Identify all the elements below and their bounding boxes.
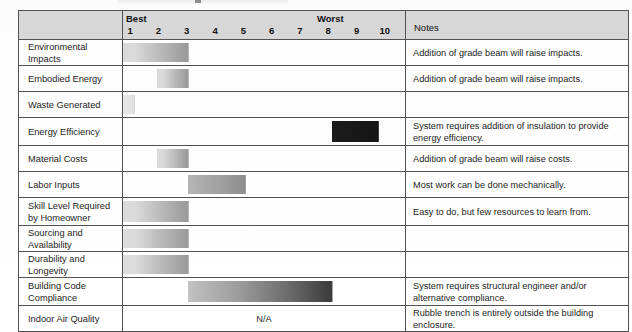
row-label-10: Indoor Air Quality <box>19 306 123 332</box>
table-row: Energy EfficiencySystem requires additio… <box>19 118 629 146</box>
table-row: Indoor Air QualityN/ARubble trench is en… <box>19 306 629 332</box>
row-note-0: Addition of grade beam will raise impact… <box>406 40 629 66</box>
row-label-2: Waste Generated <box>19 92 123 118</box>
row-note-2 <box>406 92 629 118</box>
header-scale-cell: Best Worst 12345678910 <box>123 11 406 40</box>
table-row: Sourcing and Availability <box>19 226 629 252</box>
scale-tick-8: 8 <box>326 25 331 36</box>
rating-bar <box>123 43 189 62</box>
row-label-1: Embodied Energy <box>19 66 123 92</box>
row-note-1: Addition of grade beam will raise impact… <box>406 66 629 92</box>
row-label-6: Skill Level Required by Homeowner <box>19 198 123 226</box>
table-body: Environmental ImpactsAddition of grade b… <box>19 40 629 332</box>
row-label-9: Building Code Compliance <box>19 278 123 306</box>
header-blank-cell <box>19 11 123 40</box>
row-rating-bar-cell-8 <box>123 252 406 278</box>
row-note-6: Easy to do, but few resources to learn f… <box>406 198 629 226</box>
row-note-7 <box>406 226 629 252</box>
row-rating-bar-cell-3 <box>123 118 406 146</box>
row-rating-bar-cell-9 <box>123 278 406 306</box>
row-rating-bar-cell-0 <box>123 40 406 66</box>
row-label-4: Material Costs <box>19 146 123 172</box>
table-row: Building Code ComplianceSystem requires … <box>19 278 629 306</box>
rating-bar <box>188 175 246 194</box>
rating-bar <box>123 201 189 222</box>
rating-bar <box>157 149 189 168</box>
assessment-matrix-table: Best Worst 12345678910 Notes Environment… <box>18 10 629 332</box>
row-label-8: Durability and Longevity <box>19 252 123 278</box>
row-label-3: Energy Efficiency <box>19 118 123 146</box>
scale-tick-3: 3 <box>184 25 189 36</box>
scale-tick-1: 1 <box>127 25 132 36</box>
rating-bar <box>188 281 333 302</box>
rating-bar <box>123 255 189 274</box>
row-rating-bar-cell-6 <box>123 198 406 226</box>
row-label-7: Sourcing and Availability <box>19 226 123 252</box>
scale-best-label: Best <box>126 13 147 24</box>
rating-bar <box>123 229 189 248</box>
scale-tick-2: 2 <box>156 25 161 36</box>
row-note-4: Addition of grade beam will raise costs. <box>406 146 629 172</box>
row-label-5: Labor Inputs <box>19 172 123 198</box>
table-row: Durability and Longevity <box>19 252 629 278</box>
rating-na-label: N/A <box>123 314 405 324</box>
rating-bar <box>123 95 135 114</box>
rating-bar <box>157 69 189 88</box>
scale-tick-5: 5 <box>241 25 246 36</box>
scale-tick-9: 9 <box>354 25 359 36</box>
notes-column-label: Notes <box>414 18 628 33</box>
cropped-title-glyph <box>195 0 201 3</box>
row-note-3: System requires addition of insulation t… <box>406 118 629 146</box>
scale-tick-track: 12345678910 <box>123 25 405 39</box>
row-rating-bar-cell-2 <box>123 92 406 118</box>
table-row: Labor InputsMost work can be done mechan… <box>19 172 629 198</box>
header-row: Best Worst 12345678910 Notes <box>19 11 629 40</box>
scale-tick-6: 6 <box>269 25 274 36</box>
table-row: Skill Level Required by HomeownerEasy to… <box>19 198 629 226</box>
rating-bar <box>332 121 378 142</box>
row-rating-bar-cell-7 <box>123 226 406 252</box>
table-row: Environmental ImpactsAddition of grade b… <box>19 40 629 66</box>
row-rating-bar-cell-10: N/A <box>123 306 406 332</box>
row-note-5: Most work can be done mechanically. <box>406 172 629 198</box>
row-rating-bar-cell-1 <box>123 66 406 92</box>
row-label-0: Environmental Impacts <box>19 40 123 66</box>
table-row: Material CostsAddition of grade beam wil… <box>19 146 629 172</box>
scale-tick-10: 10 <box>380 25 391 36</box>
scale-tick-4: 4 <box>212 25 217 36</box>
table-header: Best Worst 12345678910 Notes <box>19 11 629 40</box>
table-row: Embodied Energy Addition of grade beam w… <box>19 66 629 92</box>
row-note-8 <box>406 252 629 278</box>
cropped-title-sliver <box>118 0 288 5</box>
row-note-9: System requires structural engineer and/… <box>406 278 629 306</box>
row-rating-bar-cell-4 <box>123 146 406 172</box>
scale-worst-label: Worst <box>317 13 344 24</box>
row-note-10: Rubble trench is entirely outside the bu… <box>406 306 629 332</box>
table-row: Waste Generated <box>19 92 629 118</box>
scale-tick-7: 7 <box>297 25 302 36</box>
header-notes-cell: Notes <box>406 11 629 40</box>
row-rating-bar-cell-5 <box>123 172 406 198</box>
